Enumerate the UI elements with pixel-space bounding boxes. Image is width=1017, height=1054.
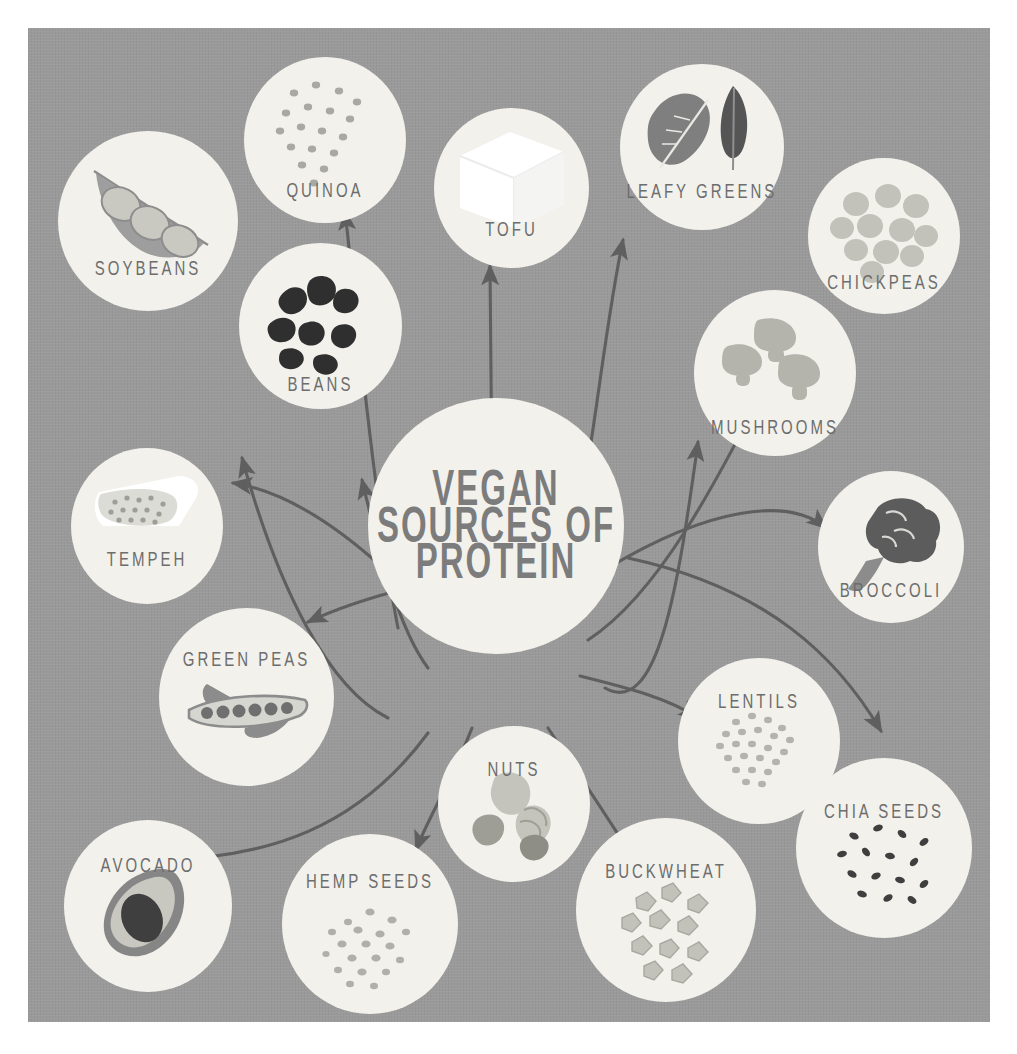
poster-canvas: VEGAN SOURCES OF PROTEIN SOYBEANS — [28, 28, 990, 1022]
node-quinoa[interactable]: QUINOA — [244, 57, 406, 223]
node-buckwheat[interactable]: BUCKWHEAT — [576, 818, 756, 1002]
mixed-nuts-icon — [438, 726, 590, 882]
infographic-poster: VEGAN SOURCES OF PROTEIN SOYBEANS — [0, 0, 1017, 1054]
pea-pod-icon — [159, 608, 334, 786]
node-label-tofu: TOFU — [434, 217, 589, 240]
node-label-soybeans: SOYBEANS — [58, 256, 238, 279]
node-label-lentils: LENTILS — [678, 689, 840, 712]
node-label-nuts: NUTS — [438, 757, 590, 780]
arrow-to-tempeh — [233, 483, 383, 568]
node-label-leafy-greens: LEAFY GREENS — [620, 179, 784, 202]
node-beans[interactable]: BEANS — [239, 243, 402, 409]
node-label-quinoa: QUINOA — [244, 178, 406, 201]
node-soybeans[interactable]: SOYBEANS — [58, 131, 238, 311]
node-leafy-greens[interactable]: LEAFY GREENS — [620, 64, 784, 230]
node-label-hemp-seeds: HEMP SEEDS — [282, 869, 458, 892]
node-label-avocado: AVOCADO — [64, 853, 232, 876]
chia-seeds-icon — [796, 758, 972, 938]
node-label-beans: BEANS — [239, 372, 402, 395]
node-label-broccoli: BROCCOLI — [818, 578, 964, 601]
hemp-seeds-icon — [282, 834, 458, 1014]
center-node: VEGAN SOURCES OF PROTEIN — [368, 398, 624, 654]
node-label-buckwheat: BUCKWHEAT — [576, 859, 756, 882]
node-tofu[interactable]: TOFU — [434, 108, 589, 268]
node-label-tempeh: TEMPEH — [71, 547, 223, 570]
node-chia-seeds[interactable]: CHIA SEEDS — [796, 758, 972, 938]
node-hemp-seeds[interactable]: HEMP SEEDS — [282, 834, 458, 1014]
buckwheat-groats-icon — [576, 818, 756, 1002]
node-green-peas[interactable]: GREEN PEAS — [159, 608, 334, 786]
node-tempeh[interactable]: TEMPEH — [71, 448, 223, 604]
center-title-line3: PROTEIN — [416, 535, 577, 590]
soybean-pod-icon — [58, 131, 238, 311]
node-broccoli[interactable]: BROCCOLI — [818, 471, 964, 623]
node-avocado[interactable]: AVOCADO — [64, 820, 232, 992]
avocado-half-icon — [64, 820, 232, 992]
node-label-chia-seeds: CHIA SEEDS — [796, 799, 972, 822]
node-nuts[interactable]: NUTS — [438, 726, 590, 882]
node-label-mushrooms: MUSHROOMS — [694, 415, 856, 438]
node-mushrooms[interactable]: MUSHROOMS — [694, 290, 856, 456]
arrow-to-mushrooms — [605, 442, 698, 692]
leaf-pair-icon — [620, 64, 784, 230]
tempeh-block-icon — [71, 448, 223, 604]
node-label-green-peas: GREEN PEAS — [159, 647, 334, 670]
tofu-cube-icon — [434, 108, 589, 268]
